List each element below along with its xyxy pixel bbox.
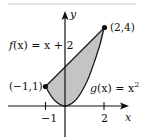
tick-label-2: 2 [101, 112, 108, 125]
g-rhs: = x [112, 82, 135, 95]
point-2-4 [102, 25, 107, 30]
point-label-2-4: (2,4) [110, 21, 135, 33]
tick-label-neg1: −1 [41, 112, 57, 125]
f-rhs: = x + 2 [28, 39, 74, 52]
f-arg: (x) [13, 39, 28, 52]
g-arg: (x) [97, 82, 112, 95]
area-between-curves-figure: −1 2 x y (−1,1) (2,4) f(x) = x + 2 g(x) … [0, 0, 143, 140]
y-axis-label: y [69, 8, 77, 21]
point-neg1-1 [43, 84, 48, 89]
x-axis-label: x [125, 111, 132, 124]
g-function-label: g(x) = x2 [90, 80, 139, 95]
g-name: g [90, 82, 97, 95]
g-exponent: 2 [134, 80, 139, 89]
point-label-neg1-1: (−1,1) [9, 80, 43, 92]
f-function-label: f(x) = x + 2 [8, 39, 74, 52]
